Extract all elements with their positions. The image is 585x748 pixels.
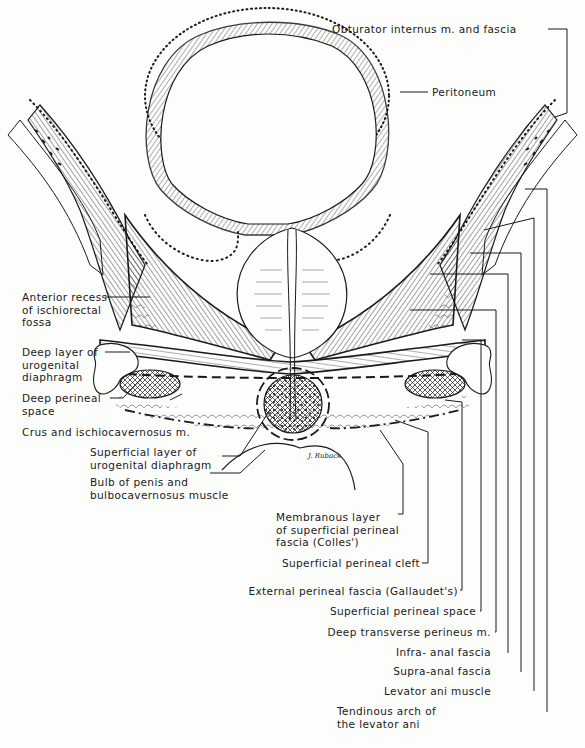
anatomy-figure: Obturator internus m. and fascia Periton…: [0, 0, 585, 748]
label-anterior-recess: Anterior recess of ischiorectal fossa: [22, 291, 107, 329]
label-levator-ani-muscle: Levator ani muscle: [384, 685, 491, 698]
label-deep-transverse-perineus: Deep transverse perineus m.: [327, 626, 491, 639]
label-superficial-perineal-cleft: Superficial perineal cleft: [282, 557, 420, 570]
label-tendinous-arch: Tendinous arch of the levator ani: [337, 705, 436, 730]
label-superficial-perineal-space: Superficial perineal space: [330, 605, 476, 618]
bladder: [145, 8, 389, 235]
bulb-of-penis: [257, 368, 329, 440]
label-obturator-internus: Obturator internus m. and fascia: [332, 23, 517, 36]
label-peritoneum: Peritoneum: [432, 86, 496, 99]
label-superficial-layer-urogenital-diaphragm: Superficial layer of urogenital diaphrag…: [90, 446, 212, 471]
label-infra-anal-fascia: Infra- anal fascia: [396, 646, 491, 659]
label-membranous-layer-colles: Membranous layer of superficial perineal…: [276, 511, 399, 549]
label-deep-layer-urogenital-diaphragm: Deep layer of urogenital diaphragm: [22, 346, 98, 384]
label-external-perineal-fascia: External perineal fascia (Gallaudet's): [248, 585, 458, 598]
label-deep-perineal-space: Deep perineal space: [22, 392, 101, 417]
label-crus-ischiocavernosus: Crus and ischiocavernosus m.: [22, 426, 190, 439]
label-supra-anal-fascia: Supra-anal fascia: [393, 665, 491, 678]
label-bulb-of-penis: Bulb of penis and bulbocavernosus muscle: [90, 476, 229, 501]
artist-signature: J. Ruback: [308, 452, 341, 460]
